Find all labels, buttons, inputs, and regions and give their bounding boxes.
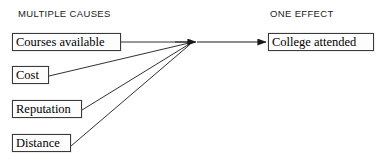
cause-node-distance[interactable]: Distance [12, 134, 71, 152]
cause-node-label: Courses available [16, 36, 105, 49]
cause-effect-diagram: MULTIPLE CAUSES ONE EFFECT Courses avail… [0, 0, 382, 163]
edge-distance-to-convergence [71, 44, 190, 146]
heading-multiple-causes: MULTIPLE CAUSES [18, 9, 111, 19]
cause-node-courses-available[interactable]: Courses available [12, 33, 121, 51]
cause-node-reputation[interactable]: Reputation [12, 100, 82, 118]
cause-node-label: Distance [16, 137, 60, 150]
cause-node-label: Cost [16, 69, 39, 82]
cause-node-cost[interactable]: Cost [12, 66, 49, 84]
effect-node-college-attended[interactable]: College attended [268, 33, 374, 51]
effect-node-label: College attended [272, 36, 356, 49]
heading-one-effect: ONE EFFECT [270, 9, 334, 19]
edge-reputation-to-convergence [82, 44, 190, 110]
cause-node-label: Reputation [16, 103, 71, 116]
